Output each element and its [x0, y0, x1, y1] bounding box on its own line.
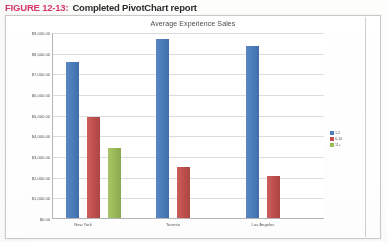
- y-tick-label: $6,000.00: [8, 92, 50, 97]
- scanned-page: FIGURE 12-13: Completed PivotChart repor…: [0, 0, 387, 242]
- legend-label: 11+: [335, 143, 341, 147]
- figure-caption: FIGURE 12-13: Completed PivotChart repor…: [5, 0, 197, 14]
- y-axis-tick-labels: $9,000.00 $8,000.00 $7,000.00 $6,000.00 …: [6, 33, 50, 219]
- x-axis-label-toronto: Toronto: [143, 222, 203, 227]
- bar-toronto-series-1[interactable]: [156, 39, 169, 218]
- bar-group-new-york: [66, 33, 136, 218]
- y-tick-label: $3,000.00: [8, 154, 50, 159]
- y-tick-label: $0.00: [8, 217, 50, 222]
- legend-swatch-icon: [330, 131, 334, 135]
- y-tick-label: $5,000.00: [8, 113, 50, 118]
- bar-los-angeles-series-1[interactable]: [246, 46, 259, 218]
- y-tick-label: $8,000.00: [8, 51, 50, 56]
- legend-label: 6-10: [335, 137, 342, 141]
- x-axis-label-new-york: New York: [53, 222, 113, 227]
- chart-legend: 1-5 6-10 11+: [330, 130, 358, 148]
- pivotchart-frame[interactable]: Average Experience Sales $9,000.00 $8,00…: [5, 15, 381, 239]
- bar-toronto-series-2[interactable]: [177, 167, 190, 218]
- frame-right-rule: [365, 17, 366, 237]
- chart-title: Average Experience Sales: [6, 20, 380, 27]
- y-tick-label: $1,000.00: [8, 196, 50, 201]
- y-tick-label: $2,000.00: [8, 175, 50, 180]
- bar-group-toronto: [156, 33, 226, 218]
- x-axis-line: [52, 218, 324, 219]
- legend-swatch-icon: [330, 137, 334, 141]
- legend-label: 1-5: [335, 131, 340, 135]
- bar-new-york-series-2[interactable]: [87, 117, 100, 218]
- bar-new-york-series-3[interactable]: [108, 148, 121, 218]
- plot-area: [52, 33, 324, 219]
- figure-number: FIGURE 12-13:: [5, 2, 68, 13]
- x-axis-label-los-angeles: Los Angeles: [233, 222, 293, 227]
- y-tick-label: $7,000.00: [8, 72, 50, 77]
- figure-title: Completed PivotChart report: [72, 2, 196, 13]
- legend-swatch-icon: [330, 143, 334, 147]
- y-tick-label: $9,000.00: [8, 31, 50, 36]
- y-axis-line: [52, 33, 53, 219]
- bar-group-los-angeles: [246, 33, 316, 218]
- y-tick-label: $4,000.00: [8, 134, 50, 139]
- bar-new-york-series-1[interactable]: [66, 62, 79, 218]
- legend-item-series-3[interactable]: 11+: [330, 142, 358, 148]
- chart-canvas: Average Experience Sales $9,000.00 $8,00…: [6, 16, 380, 238]
- bar-los-angeles-series-2[interactable]: [267, 176, 280, 218]
